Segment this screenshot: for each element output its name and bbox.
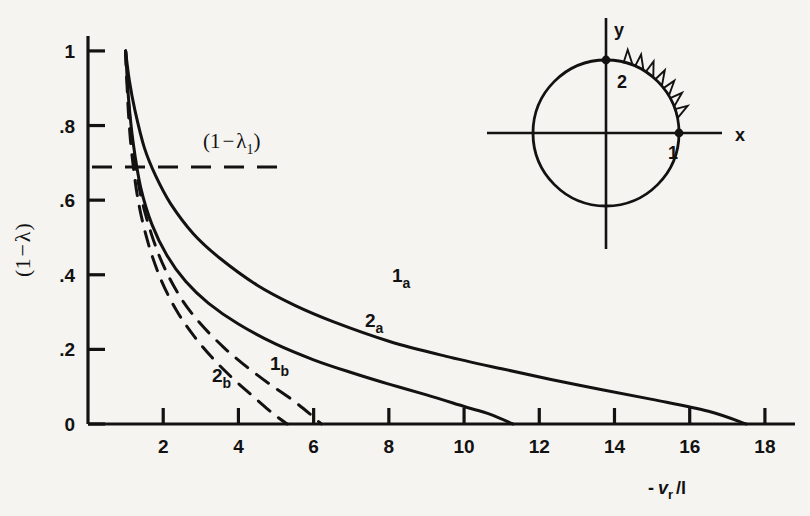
lambda-one-label: (1−λ1) <box>203 129 261 157</box>
x-tick-label: 18 <box>754 436 775 457</box>
curve-2b <box>126 51 288 424</box>
inset-arc-hatching <box>624 50 688 118</box>
curve-label-group: 1a2a1b2b <box>212 265 411 391</box>
y-tick-label: 0 <box>64 414 75 435</box>
figure-page: he inward slip of a field in the layer—i… <box>0 0 810 516</box>
hatch-tick <box>664 81 675 95</box>
inset-point-1-label: 1 <box>668 143 678 163</box>
svg-text:(1−λ): (1−λ) <box>10 223 35 277</box>
inset-point-1-marker <box>675 129 684 138</box>
hatch-tick <box>646 61 654 76</box>
x-tick-label: 16 <box>679 436 700 457</box>
y-tick-label: 1 <box>64 41 75 62</box>
hatch-tick <box>655 70 665 85</box>
x-tick-label: 8 <box>384 436 395 457</box>
y-tick-group: 0.2.4.6.81 <box>59 41 105 435</box>
plot-axes <box>88 36 795 424</box>
inset-x-axis-label: x <box>735 125 745 145</box>
y-tick-label: .8 <box>59 116 75 137</box>
hatch-tick <box>675 106 688 118</box>
x-tick-label: 6 <box>308 436 319 457</box>
x-tick-label: 4 <box>233 436 244 457</box>
y-axis-title: (1−λ) <box>10 223 35 277</box>
inset-unit-circle: y x 2 1 <box>487 18 745 249</box>
x-axis-title: -vr/l <box>648 478 686 502</box>
x-tick-label: 14 <box>604 436 626 457</box>
inset-point-2-label: 2 <box>617 72 627 92</box>
y-tick-label: .4 <box>59 265 75 286</box>
curve-2a <box>126 51 513 424</box>
lambda-one-annotation: (1−λ1) <box>92 129 282 167</box>
curve-label-2b: 2b <box>212 365 231 391</box>
x-tick-label: 10 <box>453 436 474 457</box>
curve-label-1a: 1a <box>392 265 411 291</box>
curve-label-1b: 1b <box>270 353 289 379</box>
inset-point-2-marker <box>602 56 611 65</box>
y-tick-label: .6 <box>59 190 75 211</box>
figure-svg: 0.2.4.6.81 24681012141618 (1−λ1) 1a2a1b2… <box>0 0 810 516</box>
y-tick-label: .2 <box>59 339 75 360</box>
curve-label-2a: 2a <box>365 310 384 336</box>
x-tick-label: 2 <box>158 436 169 457</box>
x-tick-group: 24681012141618 <box>158 408 776 457</box>
inset-y-axis-label: y <box>614 20 624 40</box>
x-tick-label: 12 <box>529 436 550 457</box>
hatch-tick <box>635 55 643 70</box>
